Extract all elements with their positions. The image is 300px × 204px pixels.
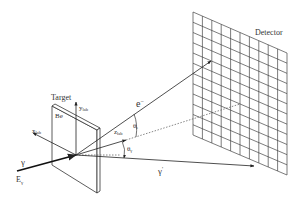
target-label: Target (51, 93, 72, 102)
photon-angle-arc (122, 141, 125, 158)
z-lab-label: zlab (114, 128, 123, 136)
x-lab-label: xlab (32, 127, 42, 135)
incident-photon-label: γ (20, 157, 25, 167)
diagram-canvas: Detector Target Be ylab xlab zlab γ Eγ e… (0, 0, 300, 204)
electron-label: e− (136, 98, 144, 109)
electron-track (76, 61, 211, 155)
photon-energy-label: Eγ (16, 175, 24, 185)
electron-angle-label: θe (133, 122, 138, 130)
material-label: Be (55, 112, 63, 120)
y-lab-label: ylab (79, 104, 89, 112)
photon-angle-label: θγ (127, 145, 132, 153)
beam-axis-dotted (126, 104, 240, 140)
detector-label: Detector (255, 28, 283, 37)
scattered-photon-label: γ' (157, 166, 163, 176)
scattered-photon-track (76, 155, 254, 166)
